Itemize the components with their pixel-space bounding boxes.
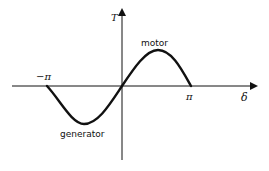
- tick-neg-pi: −π: [36, 71, 51, 82]
- tick-pos-pi: π: [185, 91, 193, 102]
- motor-label: motor: [141, 38, 168, 48]
- sine-curve: [47, 50, 191, 124]
- generator-label: generator: [60, 129, 105, 139]
- y-axis-label: T: [111, 12, 119, 23]
- x-axis-label: δ: [241, 91, 248, 104]
- torque-angle-diagram: T δ −π π motor generator: [0, 0, 269, 171]
